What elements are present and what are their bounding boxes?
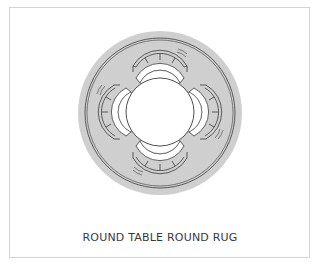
caption: ROUND TABLE ROUND RUG (0, 231, 320, 244)
floor-plan-drawing (0, 0, 320, 268)
round-table (126, 78, 194, 146)
